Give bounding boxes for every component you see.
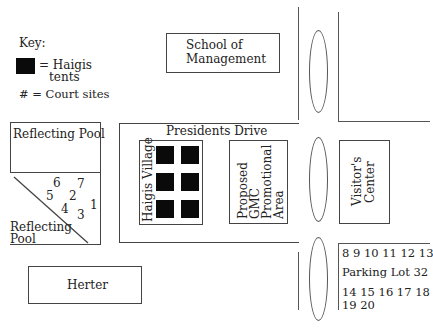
reflecting-pool-lower-label-2: Pool — [10, 232, 36, 246]
haigis-tent-6 — [181, 200, 199, 218]
parking-lot-top-edge — [338, 243, 430, 244]
court-site-1: 1 — [90, 198, 98, 212]
parking-lot-name: Parking Lot 32 — [342, 265, 428, 279]
parking-lot-court-sites-row-3: 19 20 — [342, 298, 375, 312]
haigis-tent-5 — [156, 200, 174, 218]
herter-building: Herter — [28, 266, 142, 304]
herter-label: Herter — [67, 278, 108, 292]
parking-lot-court-sites-row-1: 8 9 10 11 12 13 — [342, 246, 433, 260]
court-site-5: 5 — [46, 189, 54, 203]
visitors-center-label-2: Center — [364, 161, 377, 203]
haigis-tent-3 — [156, 173, 174, 191]
presidents-drive-label: Presidents Drive — [166, 124, 267, 138]
parking-lot-court-sites-row-2: 14 15 16 17 18 — [342, 285, 430, 299]
court-site-4: 4 — [61, 202, 69, 216]
court-site-6: 6 — [53, 176, 61, 190]
court-site-7: 7 — [77, 177, 85, 191]
gmc-label-4: Area — [273, 190, 286, 219]
court-site-2: 2 — [69, 189, 77, 203]
haigis-tent-1 — [156, 146, 174, 164]
court-site-3: 3 — [77, 208, 85, 222]
haigis-village-label: Haigis Village — [142, 137, 155, 222]
haigis-tent-2 — [181, 146, 199, 164]
haigis-tent-4 — [181, 173, 199, 191]
parking-lot-left-edge — [338, 243, 339, 310]
